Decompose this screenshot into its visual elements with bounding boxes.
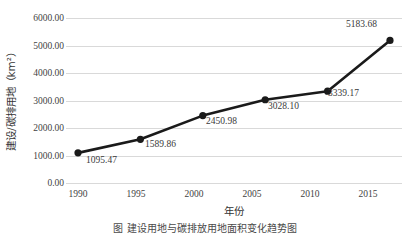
data-point-label: 1589.86: [145, 139, 176, 150]
x-tick-label: 1995: [113, 189, 159, 200]
data-point-marker: [74, 149, 81, 156]
x-tick-label: 2000: [171, 189, 217, 200]
figure-caption: 图 建设用地与碳排放用地面积变化趋势图: [0, 223, 410, 234]
y-tick-label: 6000.00: [20, 13, 64, 23]
y-tick-label: 1000.00: [20, 151, 64, 161]
y-tick-label: 2000.00: [20, 123, 64, 133]
y-axis-title-text: 建设/碳排用地（km²）: [3, 47, 18, 151]
y-axis-title: 建设/碳排用地（km²）: [0, 14, 20, 184]
data-point-label: 3028.10: [268, 101, 299, 112]
y-tick-label: 0.00: [20, 178, 64, 188]
data-point-marker: [386, 37, 393, 44]
data-point-label: 2450.98: [206, 116, 237, 127]
data-point-marker: [137, 136, 144, 143]
y-tick-label: 5000.00: [20, 41, 64, 51]
x-tick-label: 1990: [55, 189, 101, 200]
gridline: [66, 183, 402, 184]
x-tick-label: 2015: [345, 189, 391, 200]
data-point-label: 1095.47: [86, 155, 117, 166]
x-tick-label: 2010: [287, 189, 333, 200]
y-tick-label: 4000.00: [20, 68, 64, 78]
x-axis-title: 年份: [66, 203, 402, 218]
y-tick-label: 3000.00: [20, 96, 64, 106]
chart-figure: 建设/碳排用地（km²） 6000.00 5000.00 4000.00 300…: [0, 0, 410, 234]
x-tick-label: 2005: [229, 189, 275, 200]
data-point-label: 3339.17: [328, 88, 359, 99]
data-point-label: 5183.68: [346, 19, 377, 30]
